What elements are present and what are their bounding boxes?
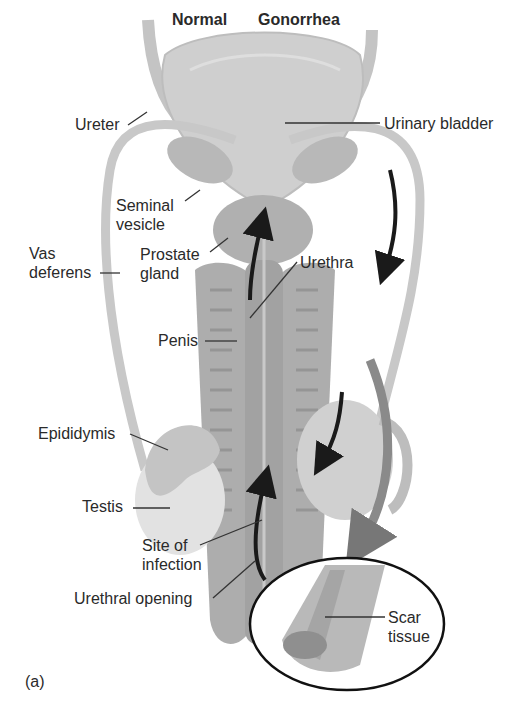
header-gonorrhea: Gonorrhea	[258, 11, 340, 29]
label-site-of-infection: Site of infection	[142, 536, 202, 574]
label-seminal-vesicle: Seminal vesicle	[116, 196, 174, 234]
infection-arrow-vas-deferens	[385, 170, 395, 270]
label-testis: Testis	[82, 497, 123, 516]
label-urinary-bladder: Urinary bladder	[384, 114, 493, 133]
label-penis: Penis	[158, 331, 198, 350]
label-ureter: Ureter	[75, 115, 119, 134]
label-urethral-opening: Urethral opening	[74, 589, 192, 608]
anatomy-figure: Normal Gonorrhea Ureter Urinary bladder …	[0, 0, 525, 711]
label-epididymis: Epididymis	[38, 424, 115, 443]
panel-label: (a)	[25, 672, 45, 691]
label-prostate-gland: Prostate gland	[140, 245, 200, 283]
label-urethra: Urethra	[300, 253, 353, 272]
header-normal: Normal	[172, 11, 227, 29]
label-scar-tissue: Scar tissue	[388, 608, 430, 646]
label-vas-deferens: Vas deferens	[29, 244, 91, 282]
